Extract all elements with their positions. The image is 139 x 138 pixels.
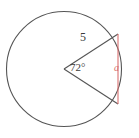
geometry-figure: 5 72° a [0,0,139,138]
chord-length-label: a [114,63,119,73]
central-angle-label: 72° [70,62,85,73]
radius-length-label: 5 [80,31,86,43]
radius-line-lower [64,69,118,104]
